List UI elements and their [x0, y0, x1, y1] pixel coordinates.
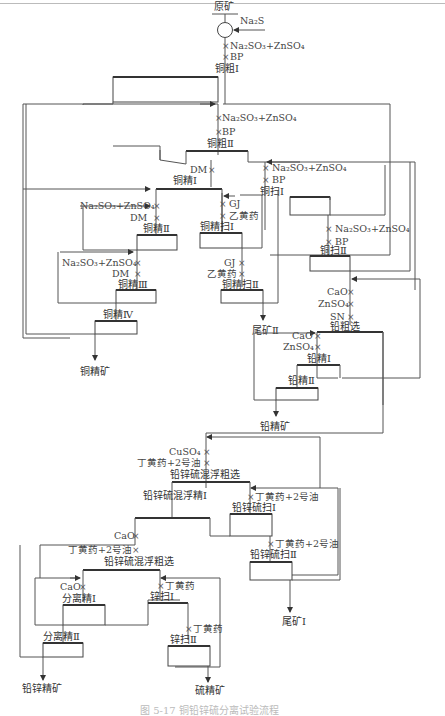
svg-text:丁黄药+2号油: 丁黄药+2号油: [137, 457, 201, 468]
svg-text:ZnSO₄: ZnSO₄: [283, 341, 314, 352]
svg-text:×: ×: [238, 258, 246, 268]
cu-cleaner2-label: 铜精Ⅱ: [143, 222, 170, 234]
svg-text:×: ×: [157, 581, 165, 591]
sep-rougher-label: 铅锌硫混浮粗选: [104, 555, 174, 567]
tailing1-label: 尾矿Ⅰ: [282, 615, 306, 627]
svg-text:DM: DM: [112, 268, 130, 279]
pb-rougher-label: 铅粗选: [330, 320, 360, 332]
svg-text:×: ×: [314, 331, 322, 341]
cell-sep-cleaner1: [63, 605, 105, 625]
svg-text:GJ: GJ: [229, 198, 241, 209]
zn-scav2-label: 锌扫Ⅱ: [170, 633, 197, 645]
conditioning-tank: [218, 23, 233, 38]
bulk-rougher-label: 铅锌硫混浮粗选: [170, 468, 240, 480]
svg-text:×: ×: [79, 582, 87, 592]
cu-scav2-label: 铜扫Ⅱ: [320, 244, 347, 256]
svg-text:×: ×: [185, 624, 193, 634]
svg-text:BP: BP: [222, 126, 236, 137]
svg-text:×: ×: [208, 165, 216, 175]
cu-rougher2-label: 铜粗Ⅱ: [207, 138, 234, 149]
svg-text:×: ×: [262, 163, 270, 173]
svg-text:CaO: CaO: [327, 286, 348, 297]
svg-text:×: ×: [134, 258, 142, 268]
svg-text:DM: DM: [130, 212, 148, 223]
svg-text:×: ×: [347, 299, 355, 309]
cu-rougher1-label: 铜粗Ⅰ: [215, 63, 239, 74]
cu-cleaner4-label: 铜精Ⅳ: [103, 308, 134, 320]
svg-text:Na₂SO₃+ZnSO₄: Na₂SO₃+ZnSO₄: [62, 257, 137, 268]
cell-cu-cleaner3: [116, 290, 156, 303]
svg-text:丁黄药+2号油: 丁黄药+2号油: [275, 538, 339, 549]
svg-text:×: ×: [219, 211, 227, 221]
bulk-scav1-label: 铅锌硫扫Ⅰ: [232, 501, 276, 513]
bulk-scav2-label: 铅锌硫扫Ⅱ: [250, 548, 297, 560]
svg-text:×: ×: [132, 531, 140, 541]
svg-text:×: ×: [222, 41, 230, 51]
s-concentrate-label: 硫精矿: [195, 684, 225, 696]
svg-text:×: ×: [153, 201, 161, 211]
svg-text:×: ×: [325, 224, 333, 234]
cell-cu-clscav2: [221, 290, 263, 303]
svg-text:CaO: CaO: [60, 581, 81, 592]
pb-cleaner2-label: 铅精Ⅱ: [288, 374, 315, 386]
cu-cleaner1-label: 铜精Ⅰ: [173, 174, 197, 186]
sep-cleaner1-label: 分离精Ⅰ: [62, 592, 96, 604]
svg-text:×: ×: [153, 213, 161, 223]
cu-clscav2-label: 铜精扫Ⅱ: [222, 278, 259, 290]
cell-pb-cleaner2: [276, 388, 318, 400]
cu-concentrate-label: 铜精矿: [80, 365, 110, 377]
cell-cu-scav2: [310, 256, 350, 271]
svg-text:×: ×: [203, 447, 211, 457]
svg-text:乙黄药: 乙黄药: [207, 268, 237, 279]
sep-cleaner2-label: 分离精Ⅱ: [43, 630, 80, 642]
cell-cu-cleaner2: [137, 235, 177, 250]
cu-clscav1-label: 铜精扫Ⅰ: [200, 220, 234, 232]
svg-text:×: ×: [238, 269, 246, 279]
svg-text:丁黄药+2号油: 丁黄药+2号油: [255, 491, 319, 502]
svg-text:Na₂SO₃+ZnSO₄: Na₂SO₃+ZnSO₄: [272, 162, 347, 173]
svg-text:乙黄药: 乙黄药: [229, 210, 259, 221]
svg-text:×: ×: [219, 199, 227, 209]
reagent-na2s: Na₂S: [240, 15, 264, 26]
cu-scav1-label: 铜扫Ⅰ: [260, 185, 284, 197]
svg-text:BP: BP: [230, 51, 244, 62]
svg-text:×: ×: [132, 545, 140, 555]
cell-cu-scav1: [290, 197, 330, 215]
flowsheet-diagram: 原矿 Na₂S ×Na₂SO₃+ZnSO₄ ×BP 铜粗Ⅰ ×Na₂SO₃+Zn…: [0, 0, 445, 716]
feed-label: 原矿: [214, 0, 234, 12]
cu-cleaner3-label: 铜精Ⅲ: [118, 278, 148, 290]
svg-text:Na₂SO₃+ZnSO₄: Na₂SO₃+ZnSO₄: [335, 223, 410, 234]
svg-text:Na₂SO₃+ZnSO₄: Na₂SO₃+ZnSO₄: [80, 200, 155, 211]
svg-text:BP: BP: [272, 174, 286, 185]
svg-text:Na₂SO₃+ZnSO₄: Na₂SO₃+ZnSO₄: [230, 40, 305, 51]
svg-text:Na₂SO₃+ZnSO₄: Na₂SO₃+ZnSO₄: [222, 112, 297, 123]
svg-text:丁黄药: 丁黄药: [193, 623, 223, 634]
cell-bulk-scav2: [250, 562, 292, 580]
cell-cu-rougher1: [113, 77, 218, 102]
pb-concentrate-label: 铅精矿: [260, 420, 290, 432]
svg-text:ZnSO₄: ZnSO₄: [318, 298, 349, 309]
pb-cleaner1-label: 铅精Ⅰ: [307, 352, 331, 364]
cell-cu-cleaner4: [95, 321, 137, 334]
figure-caption: 图 5-17 铜铅锌硫分离试验流程: [140, 704, 279, 716]
flowsheet-figure: 原矿 Na₂S ×Na₂SO₃+ZnSO₄ ×BP 铜粗Ⅰ ×Na₂SO₃+Zn…: [0, 0, 445, 716]
svg-text:×: ×: [262, 175, 270, 185]
svg-text:×: ×: [314, 342, 322, 352]
pbzn-concentrate-label: 铅锌精矿: [22, 682, 62, 694]
svg-text:丁黄药+2号油: 丁黄药+2号油: [68, 544, 132, 555]
svg-text:×: ×: [203, 458, 211, 468]
cell-sep-cleaner2: [43, 643, 83, 657]
zn-scav1-label: 锌扫Ⅰ: [150, 590, 174, 602]
svg-text:CaO: CaO: [292, 330, 313, 341]
svg-text:×: ×: [222, 52, 230, 62]
cell-bulk-scav1: [230, 514, 272, 536]
svg-text:CuSO₄: CuSO₄: [169, 446, 201, 457]
cell-cu-clscav1: [200, 233, 242, 248]
svg-text:×: ×: [247, 492, 255, 502]
svg-text:×: ×: [347, 287, 355, 297]
svg-text:×: ×: [267, 539, 275, 549]
bulk-cleaner1-label: 铅锌硫混浮精Ⅰ: [143, 489, 207, 501]
tailing2-label: 尾矿Ⅱ: [252, 324, 279, 336]
svg-text:DM: DM: [190, 164, 208, 175]
cell-zn-scav2: [168, 646, 210, 666]
